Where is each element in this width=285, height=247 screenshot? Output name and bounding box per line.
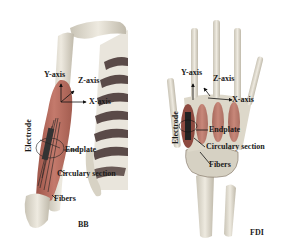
elbow-illustration xyxy=(25,193,50,228)
bb-x-axis-label: X-axis xyxy=(89,98,111,106)
fdi-endplate-label: Endplate xyxy=(209,126,240,134)
interossei-muscles-illustration xyxy=(196,102,240,144)
biceps-muscle-illustration xyxy=(36,80,72,202)
bb-electrode-label: Electrode xyxy=(25,119,33,152)
bb-circular-section-label: Circulary section xyxy=(57,170,116,178)
bb-z-axis-label: Z-axis xyxy=(78,77,99,85)
bb-y-axis-label: Y-axis xyxy=(44,71,65,79)
bb-panel xyxy=(25,21,128,228)
bb-fibers-label: Fibers xyxy=(54,195,76,203)
fdi-circular-section-label: Circulary section xyxy=(206,143,265,151)
fdi-z-axis-label: Z-axis xyxy=(213,75,234,83)
ulna-illustration xyxy=(224,184,236,236)
fdi-x-axis-label: X-axis xyxy=(232,96,254,104)
radius-illustration xyxy=(196,173,214,238)
fdi-electrode-label: Electrode xyxy=(172,111,180,144)
fdi-y-axis-label: Y-axis xyxy=(181,69,202,77)
anatomy-figure xyxy=(0,0,285,247)
fdi-fibers-label: Fibers xyxy=(209,161,231,169)
fdi-panel-title: FDI xyxy=(250,228,264,237)
bb-endplate-label: Endplate xyxy=(65,146,96,154)
bb-panel-title: BB xyxy=(78,220,89,229)
electrode-marker xyxy=(185,112,191,140)
